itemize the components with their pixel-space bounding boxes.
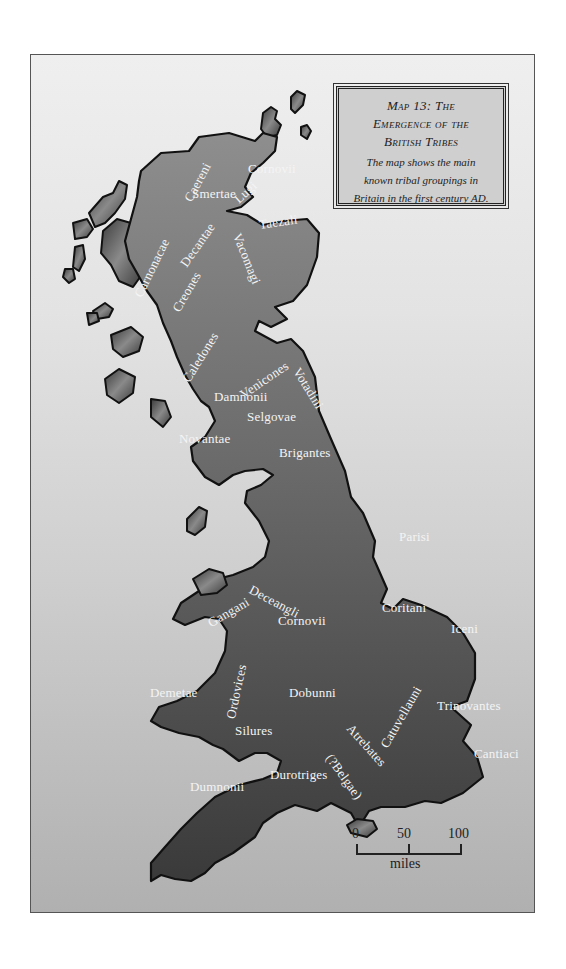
tribe-label-coritani: Coritani bbox=[382, 600, 426, 616]
scale-unit-label: miles bbox=[390, 856, 420, 872]
tribe-label-durotriges: Durotriges bbox=[270, 767, 328, 783]
legend-title-line-1: Map 13: The bbox=[339, 97, 503, 115]
tribe-label-dobunni: Dobunni bbox=[289, 685, 336, 701]
tribe-label-trinovantes: Trinovantes bbox=[437, 698, 501, 714]
tribe-label-cornovii-north: Cornovii bbox=[248, 161, 296, 177]
legend-description-line-1: The map shows the main bbox=[339, 153, 503, 171]
legend-title-line-3: British Tribes bbox=[339, 133, 503, 151]
legend-title-line-2: Emergence of the bbox=[339, 115, 503, 133]
tribe-label-novantae: Novantae bbox=[179, 431, 230, 447]
tribe-label-cornovii-midlands: Cornovii bbox=[278, 613, 326, 629]
map-legend: Map 13: The Emergence of the British Tri… bbox=[336, 86, 506, 206]
tribe-label-selgovae: Selgovae bbox=[247, 409, 296, 425]
scale-tick-label-100: 100 bbox=[448, 826, 469, 842]
top-rule bbox=[0, 0, 566, 2]
scale-tick-label-0: 0 bbox=[352, 826, 359, 842]
tribe-label-damnonii: Damnonii bbox=[214, 389, 268, 405]
scale-bar: 0 50 100 miles bbox=[352, 826, 472, 886]
tribe-label-brigantes: Brigantes bbox=[279, 445, 331, 461]
isle-of-man bbox=[187, 507, 207, 535]
legend-description-line-3: Britain in the first century AD. bbox=[339, 189, 503, 207]
tribe-label-smertae: Smertae bbox=[192, 186, 236, 202]
scale-tick-label-50: 50 bbox=[397, 826, 411, 842]
legend-description-line-2: known tribal groupings in bbox=[339, 171, 503, 189]
tribe-label-silures: Silures bbox=[235, 723, 273, 739]
tribe-label-dumnonii: Dumnonii bbox=[190, 779, 244, 795]
tribe-label-parisi: Parisi bbox=[399, 529, 430, 545]
tribe-label-demetae: Demetae bbox=[150, 685, 198, 701]
scale-line bbox=[356, 853, 461, 855]
tribe-label-cantiaci: Cantiaci bbox=[474, 746, 519, 762]
tribe-label-iceni: Iceni bbox=[451, 621, 478, 637]
